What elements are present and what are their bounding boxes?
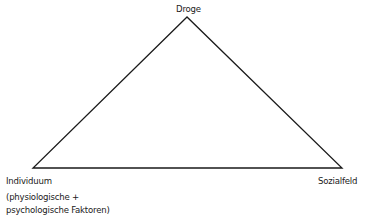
individuum-sublabel-line1: (physiologische + bbox=[6, 190, 110, 203]
vertex-label-sozialfeld: Sozialfeld bbox=[318, 174, 357, 187]
vertex-label-individuum: Individuum (physiologische + psychologis… bbox=[6, 174, 110, 216]
vertex-label-droge: Droge bbox=[176, 2, 201, 15]
triangle-shape bbox=[33, 17, 342, 168]
individuum-label: Individuum bbox=[6, 174, 110, 187]
individuum-sublabel-line2: psychologische Faktoren) bbox=[6, 203, 110, 216]
